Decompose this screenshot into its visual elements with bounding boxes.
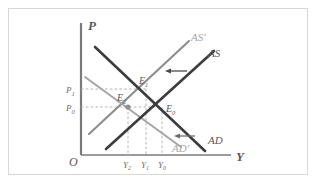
curve-label-as: AS [207,47,221,59]
point-label-e2: E2 [116,92,127,105]
output-tick-labels: Y2 Y1 Y0 [123,160,166,171]
curve-label-ad-prime: AD′ [171,142,190,154]
tick-label-p1: P1 [65,85,75,97]
y-axis-label: P [88,18,97,33]
tick-label-y2: Y2 [123,160,131,171]
x-axis-label: Y [236,149,245,164]
ad-as-diagram: P Y O P1 P0 Y2 Y1 Y0 E1 [9,9,307,174]
figure-frame: P Y O P1 P0 Y2 Y1 Y0 E1 [8,8,308,175]
price-tick-labels: P1 P0 [65,85,76,115]
origin-label: O [69,155,78,169]
tick-label-y1: Y1 [141,160,149,171]
curve-label-ad: AD [207,134,223,146]
curve-label-as-prime: AS′ [190,31,206,43]
tick-label-p0: P0 [65,103,76,115]
tick-label-y0: Y0 [158,160,166,171]
marker-e2 [125,104,130,109]
point-label-e1: E1 [138,75,148,88]
equilibrium-markers [125,104,130,109]
as-shift-arrow [165,68,187,73]
point-label-e0: E0 [165,103,176,116]
